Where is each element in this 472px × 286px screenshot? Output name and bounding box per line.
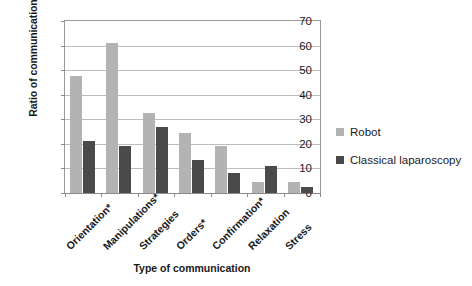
x-tick-mark <box>320 193 321 197</box>
legend-swatch-icon <box>336 156 344 164</box>
bar-group <box>101 21 137 193</box>
bars-layer <box>65 21 320 193</box>
x-tick-mark <box>211 193 212 197</box>
bar-laparoscopy <box>119 146 131 193</box>
plot-area: 010203040506070 <box>65 21 320 193</box>
bar-laparoscopy <box>156 127 168 193</box>
x-tick-mark <box>247 193 248 197</box>
bar-group <box>247 21 283 193</box>
bar-group <box>211 21 247 193</box>
chart-figure: Ratio of communication 010203040506070 O… <box>0 0 472 286</box>
x-tick-mark <box>65 193 66 197</box>
bar-laparoscopy <box>228 173 240 193</box>
bar-group <box>138 21 174 193</box>
x-axis-title: Type of communication <box>64 262 320 274</box>
legend-label: Robot <box>350 126 381 138</box>
bar-laparoscopy <box>192 160 204 193</box>
bar-laparoscopy <box>301 187 313 193</box>
bar-group <box>174 21 210 193</box>
plot-frame: 010203040506070 <box>64 20 321 193</box>
bar-robot <box>143 113 155 193</box>
x-tick-mark <box>101 193 102 197</box>
x-category-label: Stress <box>282 221 313 252</box>
x-tick-mark <box>174 193 175 197</box>
bar-group <box>65 21 101 193</box>
bar-laparoscopy <box>83 141 95 193</box>
legend-label: Classical laparoscopy <box>350 154 461 166</box>
legend-swatch-icon <box>336 128 344 136</box>
bar-robot <box>215 146 227 193</box>
bar-robot <box>106 43 118 193</box>
legend-item: Classical laparoscopy <box>336 154 461 166</box>
x-tick-mark <box>284 193 285 197</box>
bar-group <box>284 21 320 193</box>
bar-laparoscopy <box>265 166 277 193</box>
y-axis-title: Ratio of communication <box>27 0 39 143</box>
bar-robot <box>70 76 82 193</box>
x-axis-category-labels: Orientation*Manipulations*StrategiesOrde… <box>64 198 364 256</box>
x-category-label: Orders* <box>173 216 209 252</box>
bar-robot <box>179 133 191 193</box>
chart-legend: RobotClassical laparoscopy <box>336 126 461 182</box>
bar-robot <box>288 182 300 193</box>
x-tick-mark <box>138 193 139 197</box>
legend-item: Robot <box>336 126 461 138</box>
bar-robot <box>252 182 264 193</box>
